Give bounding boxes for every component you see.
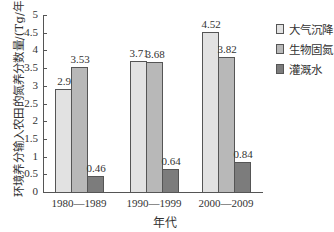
legend-swatch <box>276 24 284 34</box>
y-tick <box>43 139 47 140</box>
y-tick-label: 0.5 <box>16 168 38 179</box>
y-tick <box>43 33 47 34</box>
bar-value-label: 0.84 <box>228 149 258 160</box>
bar-value-label: 0.46 <box>81 163 111 174</box>
y-tick-label: 3 <box>16 80 38 91</box>
bar-value-label: 3.53 <box>65 54 95 65</box>
x-category-label: 1980—1989 <box>39 197 119 209</box>
bar <box>87 176 104 193</box>
legend-label: 生物固氮 <box>289 41 333 57</box>
legend-swatch <box>276 44 284 54</box>
x-axis-label: 年代 <box>140 213 190 230</box>
y-tick-label: 1 <box>16 151 38 162</box>
x-category-label: 2000—2009 <box>186 197 266 209</box>
bar <box>202 32 219 193</box>
bar-chart: 环境养分输入农田的氮养分数量/(Tg/年) 00.511.522.533.544… <box>0 0 334 232</box>
y-tick <box>43 192 47 193</box>
legend-item-irrigation-water: 灌溉水 <box>276 59 333 79</box>
y-tick <box>43 15 47 16</box>
y-tick-label: 0 <box>16 186 38 197</box>
legend-item-biological-fixation: 生物固氮 <box>276 39 333 59</box>
y-tick <box>43 68 47 69</box>
y-tick <box>43 104 47 105</box>
bar <box>130 61 147 193</box>
legend: 大气沉降 生物固氮 灌溉水 <box>276 19 333 79</box>
x-category-label: 1990—1999 <box>114 197 194 209</box>
y-tick-label: 3.5 <box>16 62 38 73</box>
y-tick <box>43 86 47 87</box>
y-tick <box>43 50 47 51</box>
bar-value-label: 3.82 <box>212 44 242 55</box>
y-tick-label: 5 <box>16 9 38 20</box>
bar <box>234 162 251 193</box>
bar <box>146 62 163 193</box>
y-tick <box>43 157 47 158</box>
y-tick <box>43 121 47 122</box>
y-tick-label: 2 <box>16 115 38 126</box>
bar-value-label: 3.68 <box>140 49 170 60</box>
y-tick-label: 4 <box>16 44 38 55</box>
bar <box>71 67 88 193</box>
legend-item-atmospheric-deposition: 大气沉降 <box>276 19 333 39</box>
y-tick-label: 2.5 <box>16 98 38 109</box>
bar-value-label: 0.64 <box>156 156 186 167</box>
legend-swatch <box>276 64 284 74</box>
y-tick <box>43 174 47 175</box>
bar <box>218 57 235 193</box>
y-tick-label: 1.5 <box>16 133 38 144</box>
legend-label: 大气沉降 <box>289 21 333 37</box>
bar <box>162 169 179 193</box>
bar-value-label: 4.52 <box>196 19 226 30</box>
bar <box>55 89 72 193</box>
y-tick-label: 4.5 <box>16 27 38 38</box>
legend-label: 灌溉水 <box>289 61 322 77</box>
